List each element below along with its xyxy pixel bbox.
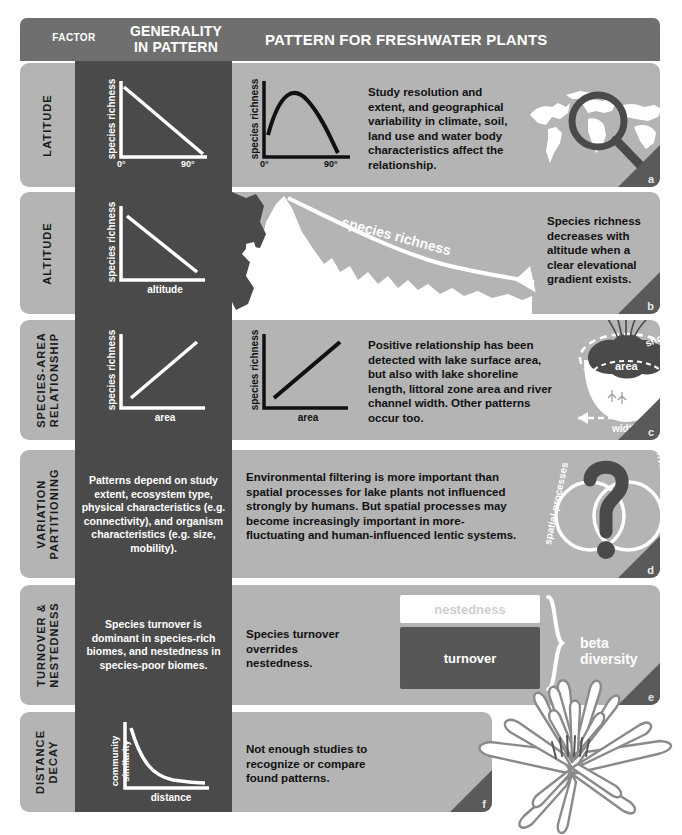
pattern-text-distance-decay: Not enough studies to recognize or compa…	[246, 742, 376, 786]
factor-label-species-area-line2: RELATIONSHIP	[48, 333, 60, 427]
row-altitude-pattern: species richness Species richness decrea…	[232, 192, 660, 314]
header-generality-label: GENERALITY IN PATTERN	[100, 23, 252, 55]
plot-species-area-pattern-xlabel: area	[298, 412, 319, 423]
factor-label-variation-line2: PARTITIONING	[48, 468, 60, 559]
row-species-area-generality: species richness area	[75, 320, 232, 440]
row-distance-decay-factor: DISTANCE DECAY	[20, 712, 75, 812]
generality-text-turnover-nestedness: Species turnover is dominant in species-…	[81, 618, 226, 672]
plot-distance-decay-generality: community similarity distance	[99, 716, 219, 810]
factor-label-species-area: SPECIES-AREA RELATIONSHIP	[35, 332, 61, 428]
plot-latitude-generality: species richness 0° 90°	[103, 75, 213, 175]
corner-tab-d-letter: d	[647, 564, 654, 576]
beta-diversity-label: beta diversity	[580, 635, 660, 667]
plot-altitude-generality-xlabel: altitude	[147, 284, 183, 295]
plot-species-area-pattern-ylabel: species richness	[249, 330, 260, 411]
plot-latitude-generality-xtick-left: 0°	[117, 159, 126, 169]
header-pattern-label: PATTERN FOR FRESHWATER PLANTS	[265, 31, 547, 48]
plot-species-area-generality-xlabel: area	[155, 412, 176, 423]
corner-tab-b-letter: b	[647, 300, 654, 312]
row-species-area: SPECIES-AREA RELATIONSHIP species richne…	[20, 320, 660, 440]
illustration-label-area: area	[615, 360, 638, 372]
generality-text-variation-partitioning: Patterns depend on study extent, ecosyst…	[81, 474, 226, 555]
row-distance-decay-pattern: Not enough studies to recognize or compa…	[232, 712, 492, 812]
row-variation-partitioning-factor: VARIATION PARTITIONING	[20, 450, 75, 578]
plot-latitude-generality-xtick-right: 90°	[181, 159, 195, 169]
plot-latitude-generality-ylabel: species richness	[106, 79, 117, 160]
row-latitude-pattern: species richness 0° 90° Study resolution…	[232, 63, 660, 187]
row-altitude: ALTITUDE species richness altitude	[20, 192, 660, 314]
table-header: FACTOR GENERALITY IN PATTERN PATTERN FOR…	[20, 18, 660, 61]
row-variation-partitioning-pattern: Environmental filtering is more importan…	[232, 450, 660, 578]
figure-root: FACTOR GENERALITY IN PATTERN PATTERN FOR…	[0, 0, 682, 835]
plot-distance-decay-xlabel: distance	[151, 792, 192, 803]
plot-species-area-generality: species richness area	[103, 328, 215, 432]
plot-distance-decay-ylabel-line1: community	[109, 736, 120, 787]
illustration-world-map-with-magnifier	[522, 77, 660, 177]
factor-label-variation-partitioning: VARIATION PARTITIONING	[35, 468, 61, 559]
factor-label-turnover-line1: TURNOVER &	[35, 603, 47, 687]
row-latitude: LATITUDE species richness 0° 90° species…	[20, 63, 660, 187]
factor-label-turnover-line2: NESTEDNESS	[48, 602, 60, 688]
factor-label-latitude: LATITUDE	[41, 94, 54, 156]
factor-label-turnover-nestedness: TURNOVER & NESTEDNESS	[35, 602, 61, 688]
plot-distance-decay-ylabel: community similarity	[109, 736, 131, 787]
header-generality-line2: IN PATTERN	[134, 39, 218, 55]
plot-latitude-pattern: species richness 0° 90°	[246, 75, 356, 175]
illustration-water-lily-flower	[462, 664, 682, 834]
row-turnover-nestedness-generality: Species turnover is dominant in species-…	[75, 585, 232, 705]
nestedness-box: nestedness	[400, 595, 540, 623]
factor-label-altitude: ALTITUDE	[41, 222, 54, 284]
factor-label-species-area-line1: SPECIES-AREA	[35, 332, 47, 428]
pattern-text-latitude: Study resolution and extent, and geograp…	[368, 85, 518, 172]
row-variation-partitioning-generality: Patterns depend on study extent, ecosyst…	[75, 450, 232, 578]
plot-latitude-pattern-xtick-right: 90°	[324, 159, 338, 169]
plot-altitude-generality-ylabel: species richness	[106, 202, 117, 283]
row-altitude-factor: ALTITUDE	[20, 192, 75, 314]
pattern-text-variation-partitioning: Environmental filtering is more importan…	[246, 470, 518, 543]
row-distance-decay: DISTANCE DECAY community similarity dist…	[20, 712, 492, 812]
plot-species-area-pattern: species richness area	[246, 328, 358, 432]
nestedness-label: nestedness	[434, 602, 506, 617]
factor-label-distance-decay: DISTANCE DECAY	[35, 730, 61, 794]
header-factor-label: FACTOR	[44, 32, 104, 43]
factor-label-distance-line2: DECAY	[48, 741, 60, 784]
row-altitude-generality: species richness altitude	[75, 192, 232, 314]
row-latitude-factor: LATITUDE	[20, 63, 75, 187]
factor-label-distance-line1: DISTANCE	[35, 730, 47, 794]
row-latitude-generality: species richness 0° 90°	[75, 63, 232, 187]
row-turnover-nestedness-factor: TURNOVER & NESTEDNESS	[20, 585, 75, 705]
corner-tab-c-letter: c	[648, 426, 654, 438]
plot-latitude-pattern-ylabel: species richness	[249, 79, 260, 160]
plot-altitude-generality: species richness altitude	[103, 200, 215, 304]
plot-latitude-pattern-xtick-left: 0°	[260, 159, 269, 169]
pattern-text-turnover-nestedness: Species turnover overrides nestedness.	[246, 627, 366, 671]
row-distance-decay-generality: community similarity distance	[75, 712, 232, 812]
header-generality-line1: GENERALITY	[130, 23, 222, 39]
plot-distance-decay-ylabel-line2: similarity	[120, 740, 131, 782]
corner-tab-a-letter: a	[648, 173, 654, 185]
factor-label-variation-line1: VARIATION	[35, 480, 47, 549]
row-variation-partitioning: VARIATION PARTITIONING Patterns depend o…	[20, 450, 660, 578]
pattern-text-altitude: Species richness decreases with altitude…	[547, 214, 659, 287]
plot-species-area-generality-ylabel: species richness	[106, 330, 117, 411]
row-species-area-pattern: species richness area Positive relations…	[232, 320, 660, 440]
pattern-text-species-area: Positive relationship has been detected …	[368, 338, 558, 425]
row-species-area-factor: SPECIES-AREA RELATIONSHIP	[20, 320, 75, 440]
